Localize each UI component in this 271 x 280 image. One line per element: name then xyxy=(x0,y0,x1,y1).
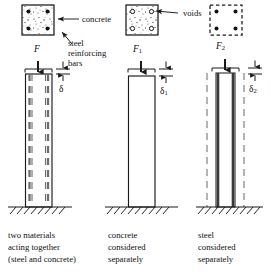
deflection-label-concrete-subscript: 1 xyxy=(164,89,167,96)
rebar-dot xyxy=(46,10,50,14)
void-circle xyxy=(149,26,153,30)
column-steel-group xyxy=(196,59,263,214)
caption-concrete-line3: separately xyxy=(108,254,143,265)
force-label-concrete: F1 xyxy=(133,44,142,55)
caption-concrete-line2: considered xyxy=(108,242,146,253)
void-circle xyxy=(149,9,153,13)
ground-hatching-composite xyxy=(10,207,65,214)
rebar-dot xyxy=(27,10,31,14)
reinforced-concrete-column-figure: concrete steel reinforcing bars voids F … xyxy=(0,0,271,280)
steel-bars-annotation-line3: bars xyxy=(68,58,82,68)
caption-concrete-line1: concrete xyxy=(108,230,137,241)
void-circle xyxy=(130,9,134,13)
ground-hatching-concrete xyxy=(107,207,169,214)
cross-section-steel-outline xyxy=(210,5,242,35)
steel-bars-annotation-line2: reinforcing xyxy=(68,48,106,58)
concrete-annotation-label: concrete xyxy=(82,14,111,24)
force-label-concrete-subscript: 1 xyxy=(139,47,142,54)
caption-steel-line3: separately xyxy=(198,254,233,265)
void-circle xyxy=(130,26,134,30)
column-concrete-group xyxy=(105,61,178,214)
force-label-steel: F2 xyxy=(216,41,225,52)
deflection-label-composite: δ xyxy=(59,84,63,95)
caption-composite-line3: (steel and concrete) xyxy=(8,254,76,265)
deflection-label-concrete: δ1 xyxy=(160,86,168,97)
rebar-dot xyxy=(215,10,219,14)
rebar-dot xyxy=(46,27,50,31)
deflection-label-steel-subscript: 2 xyxy=(253,87,256,94)
caption-steel-line2: considered xyxy=(198,242,236,253)
voids-annotation-label: voids xyxy=(183,8,202,18)
ground-hatching-steel xyxy=(198,207,260,214)
force-label-steel-subscript: 2 xyxy=(222,44,225,51)
rebar-dot xyxy=(27,27,31,31)
caption-composite-line2: acting together xyxy=(8,242,60,253)
force-label-composite: F xyxy=(34,44,40,55)
column-body-concrete xyxy=(129,76,156,207)
cross-section-steel xyxy=(210,5,242,35)
cross-section-concrete xyxy=(126,5,158,35)
rebar-dot xyxy=(234,27,238,31)
steel-bars-annotation-line1: steel xyxy=(68,38,84,48)
rebar-dot xyxy=(215,27,219,31)
rebar-dot xyxy=(234,10,238,14)
cross-section-concrete-outline xyxy=(126,5,158,35)
caption-steel-line1: steel xyxy=(198,230,214,241)
deflection-label-steel: δ2 xyxy=(249,84,257,95)
voids-leader-line xyxy=(156,11,178,13)
cross-section-composite-outline xyxy=(22,5,54,35)
cross-section-composite xyxy=(22,5,54,35)
caption-composite-line1: two materials xyxy=(8,230,55,241)
